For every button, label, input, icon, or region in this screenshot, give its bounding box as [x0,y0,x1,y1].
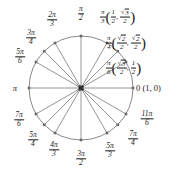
point-marker-315 [117,124,120,127]
angle-label-pi-over-2: π 2 [78,5,84,22]
seven-pi-over-6-denominator: 6 [14,121,24,129]
origin-marker [79,86,84,91]
seven-pi-over-4-denominator: 4 [128,140,138,148]
point-marker-135 [43,50,46,53]
pi-over-4-x-radicand: 2 [121,35,126,43]
angle-label-7pi-over-4: 7π 4 [128,130,138,147]
angle-coord-label-pi-over-4: π 4 ( √2 2 , √2 2 ) [106,35,146,52]
pi-over-4-y-fraction: √2 2 [131,35,141,52]
angle-label-zero-point: 0 (1, 0) [136,84,161,93]
coord-close-paren-pi-over-4: ) [141,37,146,49]
three-pi-over-2-denominator: 2 [76,160,86,168]
pi-over-2-denominator: 2 [78,15,84,23]
point-marker-90 [80,35,83,38]
angle-label-7pi-over-6: 7π 6 [14,111,24,128]
point-marker-210 [35,113,38,116]
three-pi-over-4-denominator: 4 [26,39,36,47]
angle-label-5pi-over-3: 5π 3 [105,142,115,159]
angle-coord-label-pi-over-6: π 6 ( √3 2 , 1 2 ) [106,60,141,77]
pi-over-6-x-radicand: 3 [121,60,126,68]
two-pi-over-3-denominator: 3 [47,21,57,29]
angle-label-11pi-over-6: 11π 6 [141,110,154,127]
point-marker-300 [106,132,109,135]
angle-label-2pi-over-3: 2π 3 [47,11,57,28]
point-marker-0 [132,87,135,90]
point-marker-120 [54,42,57,45]
pi-over-3-y-fraction: √3 2 [120,9,130,26]
five-pi-over-4-denominator: 4 [28,141,38,149]
eleven-pi-over-6-denominator: 6 [141,120,154,128]
point-marker-270 [80,139,83,142]
angle-label-3pi-over-4: 3π 4 [26,29,36,46]
angle-label-3pi-over-2: 3π 2 [76,150,86,167]
angle-coord-label-pi-over-3: π 3 ( 1 2 , √3 2 ) [100,9,135,26]
point-marker-240 [54,132,57,135]
point-marker-180 [28,87,31,90]
angle-label-pi: π [13,84,17,93]
coord-close-paren-pi-over-3: ) [130,11,135,23]
pi-over-4-x-denominator: 2 [117,44,127,52]
angle-label-4pi-over-3: 4π 3 [49,141,59,158]
point-marker-150 [35,61,38,64]
five-pi-over-3-denominator: 3 [105,152,115,160]
pi-over-4-x-fraction: √2 2 [117,35,127,52]
coord-close-paren-pi-over-6: ) [136,62,141,74]
pi-over-3-y-denominator: 2 [120,18,130,26]
point-marker-330 [125,113,128,116]
four-pi-over-3-denominator: 3 [49,151,59,159]
point-marker-225 [43,124,46,127]
pi-over-4-y-radicand: 2 [136,35,141,43]
angle-label-5pi-over-6: 5π 6 [15,48,25,65]
unit-circle-diagram: π 2 2π 3 3π 4 5π 6 π 7π 6 5π 4 [0,0,184,185]
pi-over-6-x-fraction: √3 2 [117,60,127,77]
pi-over-3-y-radicand: 3 [125,9,130,17]
pi-over-4-y-denominator: 2 [131,44,141,52]
five-pi-over-6-denominator: 6 [15,58,25,66]
pi-over-6-x-denominator: 2 [117,69,127,77]
angle-label-5pi-over-4: 5π 4 [28,131,38,148]
